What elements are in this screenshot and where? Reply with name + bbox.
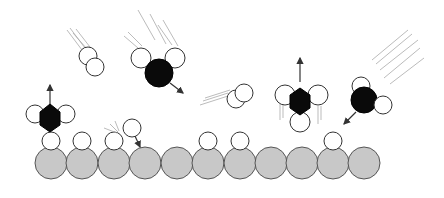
ch2-falling-top — [124, 10, 185, 93]
surface-reaction-diagram — [0, 0, 444, 198]
ch3-leaving-left — [26, 85, 75, 132]
ch3-leaving-right — [275, 58, 328, 132]
h2-falling-left — [67, 28, 104, 76]
h2-flying-mid — [200, 84, 253, 108]
ch2-falling-right — [344, 30, 424, 124]
surface-layer — [35, 147, 380, 179]
